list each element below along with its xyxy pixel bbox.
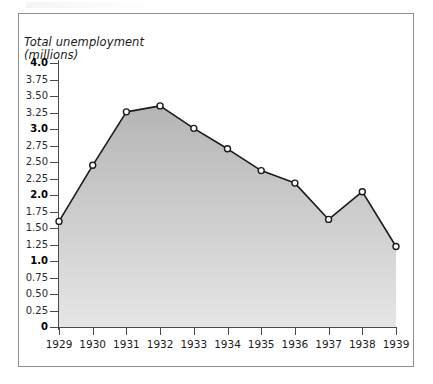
- x-axis-tick: [93, 328, 94, 335]
- data-point-marker: [258, 168, 264, 174]
- data-point-marker: [292, 180, 298, 186]
- figure-page: Total unemployment (millions) 4.03.753.5…: [0, 0, 433, 384]
- y-axis-label-text: 0.50: [18, 289, 48, 299]
- y-axis-label: 3.75: [16, 75, 48, 85]
- y-axis-tick: [50, 96, 58, 97]
- y-axis-tick: [50, 311, 58, 312]
- y-axis-label-text: 3.75: [18, 75, 48, 85]
- y-axis-label: 3.50: [16, 91, 48, 101]
- y-axis-tick: [50, 179, 58, 180]
- data-point-marker: [326, 216, 332, 222]
- plot-area: [59, 63, 396, 327]
- data-point-marker: [191, 125, 197, 131]
- y-axis-label: 1.50: [16, 223, 48, 233]
- scan-artifact: [26, 2, 176, 8]
- y-axis-tick: [50, 245, 58, 246]
- data-point-marker: [393, 243, 399, 249]
- y-axis-label: 0.50: [16, 289, 48, 299]
- y-axis-label-text: 1.50: [18, 223, 48, 233]
- y-axis-label-text: 1.0: [18, 256, 48, 266]
- x-axis-label: 1939: [376, 338, 416, 350]
- y-axis-label-text: 2.75: [18, 141, 48, 151]
- y-axis-label: 0: [16, 322, 48, 332]
- x-axis-tick: [194, 328, 195, 335]
- y-axis-tick: [50, 162, 58, 163]
- y-axis-label-text: 0.25: [18, 306, 48, 316]
- unemployment-area-series: [59, 63, 396, 327]
- data-point-marker: [56, 218, 62, 224]
- y-axis-label: 3.25: [16, 108, 48, 118]
- y-axis-tick: [50, 63, 58, 64]
- data-point-marker: [157, 103, 163, 109]
- y-axis-tick: [50, 80, 58, 81]
- x-axis-tick: [396, 328, 397, 335]
- y-axis-label: 2.75: [16, 141, 48, 151]
- y-axis-label: 0.75: [16, 273, 48, 283]
- y-axis-label-text: 4.0: [18, 58, 48, 68]
- y-axis-label-text: 1.75: [18, 207, 48, 217]
- y-axis-label: 2.25: [16, 174, 48, 184]
- x-axis-tick: [362, 328, 363, 335]
- y-axis-label-text: 3.0: [18, 124, 48, 134]
- y-axis-label: 1.0: [16, 256, 48, 266]
- x-axis-tick: [126, 328, 127, 335]
- y-axis-label-text: 0.75: [18, 273, 48, 283]
- y-axis-tick: [50, 146, 58, 147]
- y-axis-label-text: 2.50: [18, 157, 48, 167]
- y-axis-label: 4.0: [16, 58, 48, 68]
- y-axis-label: 1.75: [16, 207, 48, 217]
- x-axis-tick: [160, 328, 161, 335]
- y-axis-label-text: 2.25: [18, 174, 48, 184]
- y-axis-tick: [50, 261, 58, 262]
- data-point-marker: [90, 162, 96, 168]
- x-axis-tick: [261, 328, 262, 335]
- y-axis-label-text: 2.0: [18, 190, 48, 200]
- y-axis-label-text: 3.50: [18, 91, 48, 101]
- y-axis-tick: [50, 228, 58, 229]
- y-axis-tick: [50, 278, 58, 279]
- y-axis-label: 2.0: [16, 190, 48, 200]
- data-point-marker: [359, 189, 365, 195]
- y-axis-label-text: 3.25: [18, 108, 48, 118]
- y-axis-tick: [50, 294, 58, 295]
- y-axis-label: 2.50: [16, 157, 48, 167]
- y-axis-label: 3.0: [16, 124, 48, 134]
- y-axis-tick: [50, 212, 58, 213]
- y-axis-tick: [50, 327, 58, 328]
- y-axis-tick: [50, 113, 58, 114]
- data-point-marker: [123, 109, 129, 115]
- y-axis-label: 0.25: [16, 306, 48, 316]
- x-axis-tick: [228, 328, 229, 335]
- chart-title-line1: Total unemployment: [24, 35, 144, 49]
- y-axis-label-text: 1.25: [18, 240, 48, 250]
- y-axis-tick: [50, 129, 58, 130]
- data-point-marker: [225, 146, 231, 152]
- x-axis-tick: [59, 328, 60, 335]
- x-axis-tick: [329, 328, 330, 335]
- y-axis-label-text: 0: [18, 322, 48, 332]
- y-axis-tick: [50, 195, 58, 196]
- y-axis-label: 1.25: [16, 240, 48, 250]
- x-axis-tick: [295, 328, 296, 335]
